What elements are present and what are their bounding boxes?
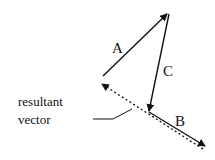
label-resultant-line2: vector <box>18 112 51 127</box>
label-a: A <box>112 40 123 56</box>
label-b: B <box>175 113 185 129</box>
label-resultant-line1: resultant <box>18 94 63 109</box>
label-c: C <box>163 63 173 79</box>
vector-diagram: A C B resultant vector <box>0 0 215 160</box>
resultant-leader-line <box>93 109 132 119</box>
